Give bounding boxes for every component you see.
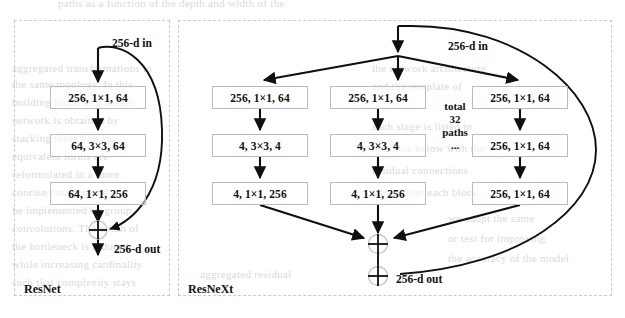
- paths-note-line-3: paths: [432, 126, 478, 139]
- resnext-path-2-op-box-2: 4, 3×3, 4: [330, 134, 426, 157]
- resnext-path-32-op-box-1: 256, 1×1, 64: [472, 86, 568, 109]
- panel-label-resnext: ResNeXt: [188, 282, 233, 297]
- resnext-paths-note: total 32 paths ...: [432, 100, 478, 152]
- panel-resnext: [178, 20, 612, 296]
- resnet-op-box-2: 64, 3×3, 64: [50, 134, 146, 157]
- paths-note-line-4: ...: [432, 139, 478, 152]
- resnext-output-label: 256-d out: [396, 273, 442, 285]
- resnet-input-label: 256-d in: [112, 37, 152, 49]
- resnext-input-label: 256-d in: [448, 40, 488, 52]
- resnext-path-1-op-box-2: 4, 3×3, 4: [212, 134, 308, 157]
- resnext-path-2-op-box-1: 256, 1×1, 64: [330, 86, 426, 109]
- resnext-path-2-op-box-3: 4, 1×1, 256: [330, 182, 426, 205]
- paths-note-line-2: 32: [432, 113, 478, 126]
- resnext-path-1-op-box-1: 256, 1×1, 64: [212, 86, 308, 109]
- resnext-path-32-op-box-3: 256, 1×1, 64: [472, 182, 568, 205]
- resnet-output-label: 256-d out: [114, 243, 160, 255]
- panel-label-resnet: ResNet: [24, 282, 61, 297]
- resnext-path-32-op-box-2: 256, 1×1, 64: [472, 134, 568, 157]
- resnet-op-box-1: 256, 1×1, 64: [50, 86, 146, 109]
- resnet-op-box-3: 64, 1×1, 256: [50, 182, 146, 205]
- resnext-path-1-op-box-3: 4, 1×1, 256: [212, 182, 308, 205]
- figure-resnet-vs-resnext: aggregated transformations inthe same to…: [0, 0, 625, 318]
- paths-note-line-1: total: [432, 100, 478, 113]
